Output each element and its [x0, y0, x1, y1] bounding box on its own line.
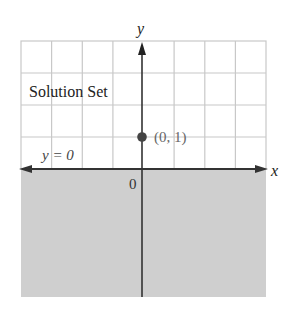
solution-set-label: Solution Set	[29, 83, 108, 100]
x-axis-label: x	[270, 162, 278, 179]
y-axis-label: y	[135, 20, 145, 38]
test-point	[137, 132, 147, 142]
graph-figure: y x 0 Solution Set y = 0 (0, 1)	[0, 0, 288, 318]
boundary-line-label: y = 0	[40, 147, 74, 163]
point-label: (0, 1)	[154, 129, 187, 146]
y-axis-arrow-icon	[138, 42, 146, 55]
shaded-region	[21, 169, 266, 297]
origin-label: 0	[129, 176, 137, 192]
